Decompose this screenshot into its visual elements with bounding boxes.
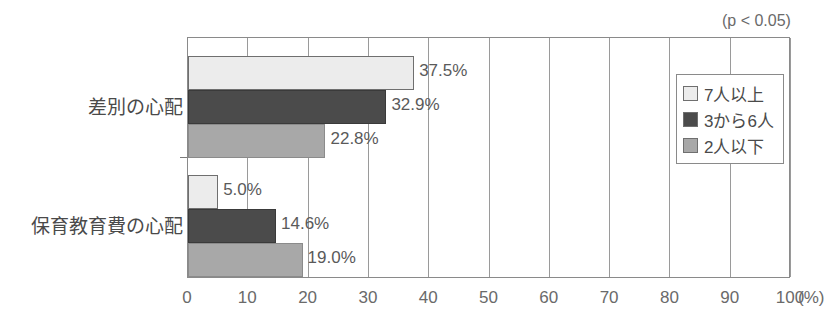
bar: [188, 56, 414, 90]
bar-chart-figure: (p < 0.05) 差別の心配保育教育費の心配 37.5%32.9%22.8%…: [0, 0, 837, 331]
bar: [188, 243, 303, 277]
x-axis-unit-label: (%): [798, 288, 824, 308]
significance-annotation: (p < 0.05): [722, 12, 791, 30]
bar-value-label: 19.0%: [308, 248, 356, 268]
x-tick-label: 20: [298, 288, 317, 308]
gridline: [669, 38, 670, 277]
legend-item-label: 2人以下: [704, 133, 764, 158]
bar: [188, 90, 386, 124]
x-tick-label: 60: [539, 288, 558, 308]
legend-item[interactable]: 7人以上: [683, 80, 777, 106]
legend: 7人以上 3から6人 2人以下: [676, 74, 784, 164]
bar-value-label: 37.5%: [419, 61, 467, 81]
legend-item[interactable]: 2人以下: [683, 132, 777, 158]
x-tick-label: 80: [660, 288, 679, 308]
category-label: 差別の心配: [88, 92, 183, 119]
x-tick-label: 50: [479, 288, 498, 308]
gridline: [790, 38, 791, 277]
bar-value-label: 5.0%: [223, 180, 262, 200]
legend-item-label: 3から6人: [704, 107, 774, 132]
x-tick-label: 30: [358, 288, 377, 308]
bar: [188, 209, 276, 243]
legend-swatch-icon: [683, 86, 698, 101]
bar-value-label: 32.9%: [391, 95, 439, 115]
x-tick-label: 0: [182, 288, 191, 308]
bar: [188, 175, 218, 209]
bar: [188, 124, 325, 158]
gridline: [549, 38, 550, 277]
x-tick-label: 40: [419, 288, 438, 308]
legend-swatch-icon: [683, 112, 698, 127]
category-label: 保育教育費の心配: [31, 211, 183, 238]
gridline: [609, 38, 610, 277]
bar-value-label: 14.6%: [281, 214, 329, 234]
x-tick-label: 10: [238, 288, 257, 308]
x-tick-label: 90: [720, 288, 739, 308]
legend-item-label: 7人以上: [704, 81, 764, 106]
gridline: [489, 38, 490, 277]
legend-swatch-icon: [683, 138, 698, 153]
legend-item[interactable]: 3から6人: [683, 106, 777, 132]
x-tick-label: 70: [600, 288, 619, 308]
bar-value-label: 22.8%: [330, 129, 378, 149]
